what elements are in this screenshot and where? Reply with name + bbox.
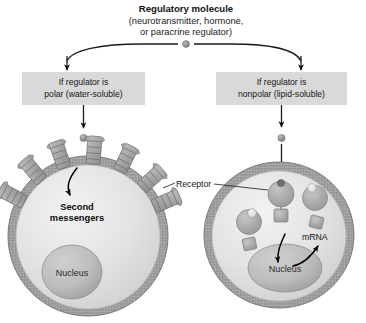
branch-bracket — [67, 41, 301, 70]
signal-transduction-diagram: Regulatory molecule (neurotransmitter, h… — [0, 0, 366, 323]
left-branch-box-line1: If regulator is — [59, 77, 109, 87]
second-messengers-label-line2: messengers — [50, 213, 104, 223]
regulatory-molecule-ligand-icon — [183, 41, 190, 48]
figure-title: Regulatory molecule — [139, 3, 233, 14]
right-branch-box-line2: nonpolar (lipid-soluble) — [238, 89, 325, 99]
figure-subtitle-line2: or paracrine regulator) — [140, 27, 232, 37]
right-branch-box-line1: If regulator is — [257, 77, 307, 87]
figure-subtitle-line1: (neurotransmitter, hormone, — [129, 16, 244, 26]
left-branch-box: If regulator is polar (water-soluble) — [22, 72, 145, 105]
right-branch-box: If regulator is nonpolar (lipid-soluble) — [216, 72, 347, 105]
receptor-label: Receptor — [176, 179, 211, 189]
bound-ligand-icon — [277, 179, 284, 186]
right-cell: Nucleus mRNA — [204, 162, 354, 308]
mrna-label: mRNA — [302, 232, 328, 242]
diagram-canvas: Regulatory molecule (neurotransmitter, h… — [0, 0, 366, 323]
right-ligand-icon — [278, 134, 285, 141]
left-branch-box-line2: polar (water-soluble) — [44, 89, 122, 99]
second-messengers-label-line1: Second — [60, 202, 94, 212]
left-nucleus-label: Nucleus — [56, 268, 89, 278]
left-cell: Second messengers Nucleus — [0, 136, 183, 316]
